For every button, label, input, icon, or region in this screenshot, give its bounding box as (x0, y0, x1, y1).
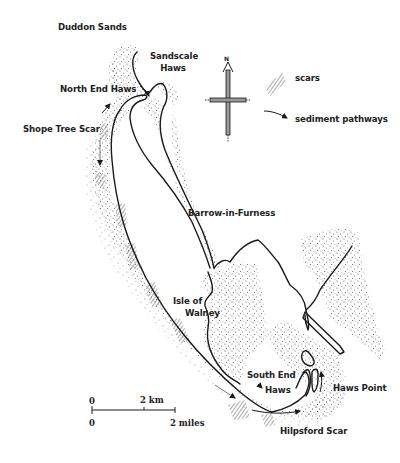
scale-km-zero: 0 (89, 396, 95, 406)
scale-mi-label: 2 miles (170, 418, 205, 428)
scale-mi-zero: 0 (89, 418, 95, 428)
label-south-end-haws-1: South End (247, 370, 296, 381)
label-sandscale-haws-1: Sandscale (150, 51, 196, 62)
label-sandscale-haws-2: Haws (150, 63, 196, 74)
label-north-end-haws: North End Haws (60, 84, 136, 95)
label-south-end-haws-2: Haws (265, 385, 291, 396)
legend-sediment-pathways-label: sediment pathways (295, 114, 388, 125)
label-barrow-in-furness: Barrow-in-Furness (188, 208, 275, 219)
label-duddon-sands: Duddon Sands (58, 22, 127, 33)
scale-km-label: 2 km (140, 395, 164, 405)
scale-bar (92, 406, 175, 414)
arrow-south-end (258, 384, 262, 388)
label-isle-of-walney-2: Walney (185, 308, 220, 319)
duddon-sands-stipple (112, 45, 150, 105)
label-isle-of-walney-1: Isle of (173, 296, 202, 307)
sandscale-coast (133, 52, 214, 268)
label-shope-tree-scar: Shope Tree Scar (23, 124, 100, 135)
sediment-legend-arrow (264, 111, 287, 118)
label-haws-point: Haws Point (333, 383, 386, 394)
legend-scars-label: scars (295, 73, 320, 84)
scars-legend-swatch (265, 72, 286, 96)
compass-north-label: N (224, 53, 229, 64)
compass-icon (205, 62, 251, 142)
label-hilpsford-scar: Hilpsford Scar (280, 426, 347, 437)
north-end-hook (120, 95, 210, 268)
